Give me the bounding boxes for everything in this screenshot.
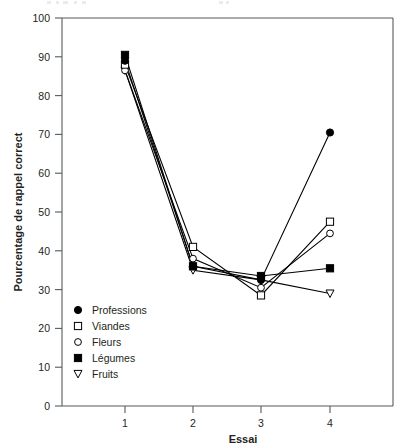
x-axis-ticks	[125, 406, 330, 413]
series-line-legumes	[125, 55, 330, 276]
x-tick-label: 2	[190, 417, 196, 429]
y-tick-label: 30	[38, 284, 50, 296]
x-tick-label: 4	[327, 417, 333, 429]
y-tick-label: 80	[38, 90, 50, 102]
y-tick-label: 100	[32, 12, 50, 24]
series-line-fruits	[125, 70, 330, 293]
legend-item-label: Professions	[92, 304, 147, 316]
y-tick-label: 40	[38, 245, 50, 257]
filled-square-icon	[257, 272, 264, 279]
filled-square-icon	[189, 263, 196, 270]
y-axis-tick-labels: 100 90 80 70 60 50 40 30 20 10 0	[32, 12, 50, 412]
legend-item-viandes: Viandes	[74, 320, 129, 332]
open-circle-icon	[190, 255, 197, 262]
open-square-icon	[257, 292, 264, 299]
x-tick-label: 3	[258, 417, 264, 429]
open-triangle-down-icon	[326, 290, 334, 298]
y-tick-label: 50	[38, 206, 50, 218]
open-square-icon	[326, 218, 333, 225]
legend-item-label: Fruits	[92, 368, 118, 380]
filled-circle-icon	[74, 306, 81, 313]
series-markers-fleurs	[122, 67, 334, 291]
open-circle-icon	[75, 339, 82, 346]
y-axis-title: Pourcentage de rappel correct	[12, 132, 24, 291]
series-markers-fruits	[121, 67, 334, 298]
x-tick-label: 1	[122, 417, 128, 429]
series-markers-professions	[121, 57, 333, 283]
filled-square-icon	[74, 354, 81, 361]
open-triangle-down-icon	[74, 370, 82, 378]
series-line-viandes	[125, 65, 330, 296]
y-tick-label: 70	[38, 128, 50, 140]
legend-item-professions: Professions	[74, 304, 146, 316]
open-circle-icon	[327, 230, 334, 237]
series-markers-legumes	[121, 51, 333, 279]
open-square-icon	[74, 322, 81, 329]
y-tick-label: 10	[38, 361, 50, 373]
y-tick-label: 90	[38, 51, 50, 63]
x-axis-title: Essai	[229, 433, 258, 445]
chart-legend: Professions Viandes Fleurs Légumes Fruit…	[74, 304, 147, 380]
chart-figure: 100 90 80 70 60 50 40 30 20 10 0 1 2 3 4…	[0, 0, 418, 446]
x-axis-tick-labels: 1 2 3 4	[122, 417, 333, 429]
filled-circle-icon	[326, 129, 333, 136]
legend-item-fleurs: Fleurs	[75, 336, 122, 348]
series-line-professions	[125, 61, 330, 280]
filled-square-icon	[326, 265, 333, 272]
legend-item-fruits: Fruits	[74, 368, 118, 380]
y-tick-label: 20	[38, 322, 50, 334]
series-markers-viandes	[121, 61, 333, 299]
cropped-caption-artifact	[47, 1, 229, 4]
open-square-icon	[189, 243, 196, 250]
recall-percentage-line-chart: 100 90 80 70 60 50 40 30 20 10 0 1 2 3 4…	[0, 0, 418, 446]
legend-item-label: Légumes	[92, 352, 135, 364]
y-tick-label: 60	[38, 167, 50, 179]
filled-square-icon	[121, 51, 128, 58]
y-tick-label: 0	[44, 400, 50, 412]
legend-item-label: Viandes	[92, 320, 130, 332]
legend-item-label: Fleurs	[92, 336, 121, 348]
y-axis-ticks	[55, 18, 62, 406]
open-circle-icon	[258, 284, 265, 291]
legend-item-legumes: Légumes	[74, 352, 135, 364]
